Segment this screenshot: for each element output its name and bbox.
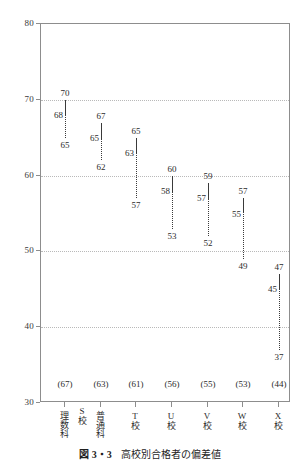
x-axis-category-label: X校 xyxy=(273,411,283,430)
y-axis-tick-mark xyxy=(36,402,40,403)
y-axis-tick-label: 80 xyxy=(0,19,34,28)
max-to-mean-segment xyxy=(65,100,66,115)
min-value-label: 53 xyxy=(168,232,177,241)
x-axis-tick-mark xyxy=(242,402,243,407)
mean-value-label: 55 xyxy=(232,210,241,219)
mean-value-label: 57 xyxy=(197,194,206,203)
x-axis-group-label: S校 xyxy=(77,406,87,425)
x-axis-tick-mark xyxy=(100,402,101,407)
gridline xyxy=(41,176,289,177)
y-axis-tick-label: 50 xyxy=(0,246,34,255)
min-value-label: 57 xyxy=(132,201,141,210)
sample-size-label: (44) xyxy=(272,380,287,389)
max-value-label: 59 xyxy=(204,172,213,181)
y-axis-tick-label: 60 xyxy=(0,171,34,180)
max-value-label: 67 xyxy=(97,112,106,121)
max-to-mean-segment xyxy=(243,198,244,213)
max-value-label: 60 xyxy=(168,165,177,174)
max-value-label: 65 xyxy=(132,127,141,136)
mean-to-min-segment xyxy=(65,115,66,138)
x-axis-tick-mark xyxy=(207,402,208,407)
mean-to-min-segment xyxy=(136,153,137,198)
gridline xyxy=(41,251,289,252)
max-to-mean-segment xyxy=(136,138,137,153)
x-axis-category-label: V校 xyxy=(202,411,212,430)
sample-size-label: (55) xyxy=(201,380,216,389)
sample-size-label: (56) xyxy=(165,380,180,389)
sample-size-label: (61) xyxy=(129,380,144,389)
sample-size-label: (67) xyxy=(58,380,73,389)
x-axis-category-label: 理数科 xyxy=(59,411,69,438)
caption-text: 高校別合格者の偏差値 xyxy=(121,449,221,460)
mean-value-label: 58 xyxy=(161,187,170,196)
x-axis-tick-mark xyxy=(278,402,279,407)
x-axis-category-label: W校 xyxy=(237,411,247,430)
mean-to-min-segment xyxy=(172,191,173,229)
max-to-mean-segment xyxy=(208,183,209,198)
max-to-mean-segment xyxy=(279,274,280,289)
x-axis-tick-mark xyxy=(64,402,65,407)
y-axis-tick-label: 30 xyxy=(0,398,34,407)
x-axis-tick-mark xyxy=(171,402,172,407)
mean-value-label: 65 xyxy=(90,134,99,143)
y-axis-tick-label: 40 xyxy=(0,322,34,331)
gridline xyxy=(41,327,289,328)
min-value-label: 37 xyxy=(275,353,284,362)
max-value-label: 70 xyxy=(61,89,70,98)
mean-value-label: 63 xyxy=(125,149,134,158)
min-value-label: 65 xyxy=(61,141,70,150)
max-to-mean-segment xyxy=(101,123,102,138)
mean-value-label: 45 xyxy=(268,285,277,294)
y-axis-tick-label: 70 xyxy=(0,95,34,104)
min-value-label: 62 xyxy=(97,163,106,172)
max-value-label: 47 xyxy=(275,263,284,272)
mean-to-min-segment xyxy=(243,214,244,259)
sample-size-label: (63) xyxy=(94,380,109,389)
x-axis-category-label: T校 xyxy=(130,411,140,430)
figure-caption: 図 3・3高校別合格者の偏差値 xyxy=(0,448,300,461)
sample-size-label: (53) xyxy=(236,380,251,389)
x-axis-tick-mark xyxy=(135,402,136,407)
mean-to-min-segment xyxy=(208,198,209,236)
caption-number: 図 3・3 xyxy=(79,449,112,460)
min-value-label: 49 xyxy=(239,262,248,271)
figure-container: 304050607080 706865676562656357605853595… xyxy=(0,0,300,471)
x-axis-category-label: 普通科 xyxy=(95,411,105,438)
x-axis-category-label: U校 xyxy=(166,411,176,430)
mean-to-min-segment xyxy=(101,138,102,161)
mean-to-min-segment xyxy=(279,289,280,350)
mean-value-label: 68 xyxy=(54,111,63,120)
plot-area: 7068656765626563576058535957525755494745… xyxy=(40,23,290,402)
gridline xyxy=(41,100,289,101)
min-value-label: 52 xyxy=(204,239,213,248)
max-value-label: 57 xyxy=(239,187,248,196)
max-to-mean-segment xyxy=(172,176,173,191)
